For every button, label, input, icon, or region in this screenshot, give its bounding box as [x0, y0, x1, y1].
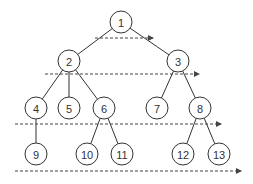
node-label: 12: [177, 149, 189, 161]
node-label: 10: [81, 149, 93, 161]
node-label: 1: [118, 17, 124, 29]
edge-8-12: [187, 118, 196, 143]
edge-6-11: [108, 118, 118, 144]
tree-node-12: 12: [172, 143, 194, 165]
edge-8-13: [204, 118, 215, 144]
node-label: 5: [66, 103, 72, 115]
node-label: 13: [213, 149, 225, 161]
tree-node-9: 9: [25, 143, 47, 165]
node-label: 6: [101, 103, 107, 115]
edge-6-10: [91, 118, 100, 143]
node-label: 4: [33, 103, 39, 115]
tree-node-1: 1: [110, 11, 132, 33]
tree-nodes: 12345678910111213: [25, 11, 230, 165]
edge-3-8: [183, 71, 196, 98]
tree-node-5: 5: [58, 97, 80, 119]
tree-edges: [36, 28, 215, 144]
node-label: 2: [66, 56, 72, 68]
edge-3-7: [161, 71, 173, 98]
tree-node-2: 2: [58, 50, 80, 72]
tree-node-13: 13: [208, 143, 230, 165]
tree-diagram: 12345678910111213: [0, 0, 253, 184]
node-label: 11: [116, 149, 127, 161]
tree-node-10: 10: [76, 143, 98, 165]
tree-node-3: 3: [167, 50, 189, 72]
tree-node-7: 7: [146, 97, 168, 119]
node-label: 7: [154, 103, 160, 115]
node-label: 8: [197, 103, 203, 115]
tree-node-11: 11: [111, 143, 133, 165]
tree-node-4: 4: [25, 97, 47, 119]
edge-1-3: [130, 28, 169, 55]
node-label: 9: [33, 149, 39, 161]
tree-node-6: 6: [93, 97, 115, 119]
edge-1-2: [78, 29, 112, 55]
node-label: 3: [175, 56, 181, 68]
tree-node-8: 8: [189, 97, 211, 119]
